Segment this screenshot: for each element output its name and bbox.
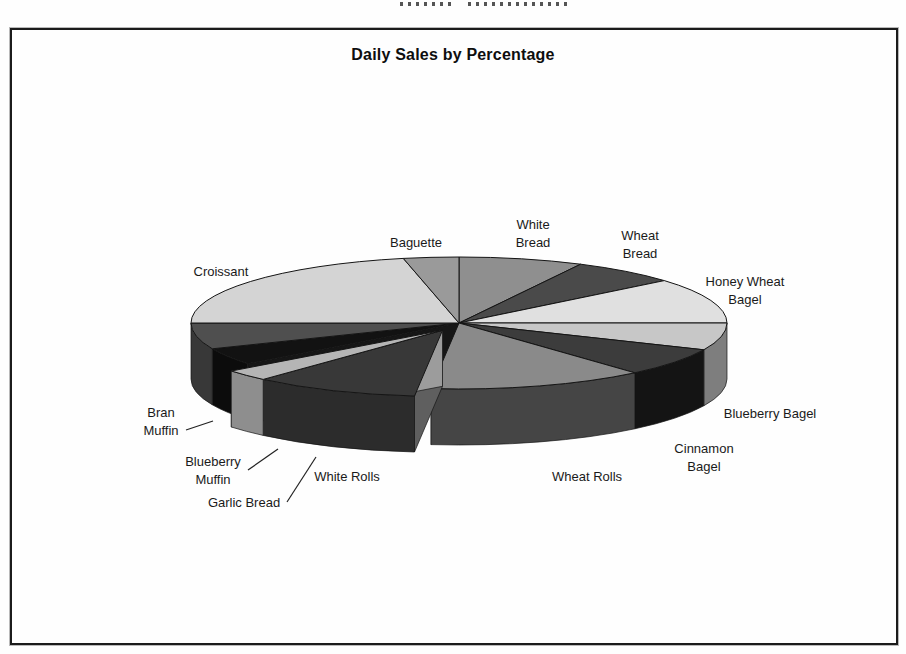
slice-label-white-rolls: White Rolls (314, 468, 380, 486)
slice-label-blueberry-muffin: BlueberryMuffin (185, 453, 241, 489)
leader-line-garlic-bread (287, 457, 316, 502)
leader-line-blueberry-muffin (248, 449, 278, 470)
leader-line-bran-muffin (186, 421, 213, 430)
slice-label-wheat-bread: WheatBread (621, 227, 659, 263)
pie-chart-canvas (0, 0, 906, 654)
slice-label-garlic-bread: Garlic Bread (208, 494, 280, 512)
slice-label-blueberry-bagel: Blueberry Bagel (724, 405, 817, 423)
pie-rim-garlic-bread (231, 371, 263, 435)
slice-label-baguette: Baguette (390, 234, 442, 252)
slice-label-cinnamon-bagel: CinnamonBagel (674, 440, 733, 476)
slice-label-wheat-rolls: Wheat Rolls (552, 468, 622, 486)
scanned-page: Daily Sales by Percentage WhiteBreadWhea… (0, 0, 906, 654)
slice-label-croissant: Croissant (194, 263, 249, 281)
slice-label-bran-muffin: BranMuffin (143, 404, 178, 440)
slice-label-honey-wheat-bagel: Honey WheatBagel (706, 273, 785, 309)
slice-label-white-bread: WhiteBread (516, 216, 551, 252)
